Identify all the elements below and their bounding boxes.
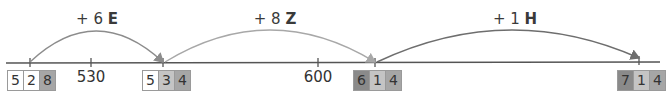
digit-hundreds: 7 [617,70,634,91]
jump-label-plus-1-H: + 1 H [493,10,537,28]
digit-ones: 8 [39,70,56,91]
jump-amount: + 8 [254,10,281,28]
jump-unit: H [525,10,538,28]
number-528: 5 2 8 [7,70,55,91]
jump-label-plus-8-Z: + 8 Z [254,10,297,28]
jump-amount: + 6 [76,10,103,28]
number-534: 5 3 4 [142,70,190,91]
number-714: 7 1 4 [617,70,665,91]
digit-ones: 4 [385,70,402,91]
jump-unit: E [108,10,118,28]
digit-hundreds: 5 [7,70,24,91]
tick-label-530: 530 [77,68,106,86]
digit-ones: 4 [649,70,666,91]
digit-hundreds: 5 [142,70,159,91]
digit-tens: 1 [633,70,650,91]
digit-hundreds: 6 [353,70,370,91]
digit-tens: 3 [158,70,175,91]
digit-tens: 2 [23,70,40,91]
jump-arc-hundreds [377,30,639,62]
digit-tens: 1 [369,70,386,91]
jump-label-plus-6-E: + 6 E [76,10,118,28]
jump-arc-tens2 [165,30,375,62]
digit-ones: 4 [174,70,191,91]
jump-arc-tens [30,31,163,62]
jump-amount: + 1 [493,10,520,28]
tick-label-600: 600 [304,68,333,86]
jump-unit: Z [285,10,296,28]
number-614: 6 1 4 [353,70,401,91]
axis-line [6,62,660,63]
